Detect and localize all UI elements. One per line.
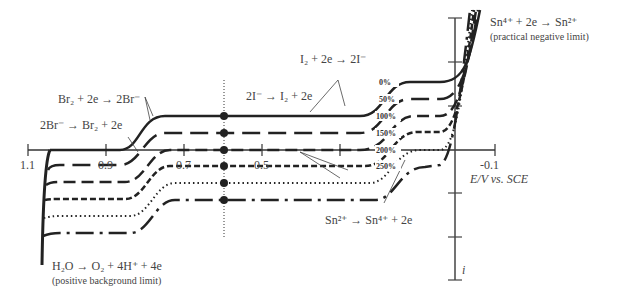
annotation-sn-oxidation: Sn²⁺ → Sn⁴⁺ + 2e	[325, 213, 412, 227]
annotation-water-oxidation-note: (positive background limit)	[52, 275, 161, 287]
x-axis-label: E/V vs. SCE	[469, 172, 529, 186]
annotation-iodide-oxidation: 2I⁻ → I₂ + 2e	[246, 89, 312, 103]
legend-100pct: 100%	[376, 112, 396, 121]
y-axis-label: i	[462, 263, 465, 277]
annotation-water-oxidation: H₂O → O₂ + 4H⁺ + 4e	[52, 259, 162, 273]
legend-150pct: 150%	[376, 129, 396, 138]
voltammogram-chart: 1.1 0.9 0.7 0.5 -0.1 E/V vs. SCE i 0% 50…	[0, 0, 619, 300]
curve-200pct	[44, 10, 472, 218]
x-tick-1.1: 1.1	[20, 158, 35, 172]
legend-250pct: 250%	[376, 162, 396, 171]
annotation-bromide-oxidation: 2Br⁻ → Br₂ + 2e	[40, 118, 122, 132]
annotation-sn-reduction-note: (practical negative limit)	[490, 31, 589, 43]
annotation-iodine-reduction: I₂ + 2e → 2I⁻	[300, 52, 366, 66]
x-tick-0.5: 0.5	[254, 158, 269, 172]
x-tick-0.7: 0.7	[176, 158, 191, 172]
x-tick-neg0.1: -0.1	[480, 158, 499, 172]
legend-50pct: 50%	[379, 95, 395, 104]
legend-200pct: 200%	[376, 146, 396, 155]
x-tick-0.9: 0.9	[98, 158, 113, 172]
annotation-bromine-reduction: Br₂ + 2e → 2Br⁻	[58, 92, 140, 106]
legend-0pct: 0%	[379, 78, 391, 87]
annotation-sn-reduction: Sn⁴⁺ + 2e → Sn²⁺	[490, 15, 577, 29]
curves	[42, 10, 480, 265]
